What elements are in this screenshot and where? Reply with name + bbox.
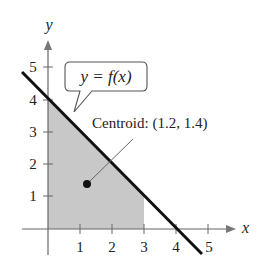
y-tick-label: 2: [29, 156, 37, 172]
chart-canvas: 1 2 3 4 5 1 2 3 4 5 x y y = f(x) Centroi…: [0, 0, 262, 275]
x-tick-label: 5: [205, 239, 213, 255]
x-tick-label: 2: [108, 239, 116, 255]
callout-label: y = f(x): [78, 67, 131, 86]
x-axis-label: x: [241, 219, 249, 236]
x-tick-label: 1: [76, 239, 84, 255]
x-axis-arrow-icon: [226, 225, 236, 233]
y-axis-arrow-icon: [44, 40, 52, 50]
y-axis-label: y: [43, 16, 53, 34]
y-tick-label: 3: [29, 124, 37, 140]
y-tick-label: 5: [29, 59, 37, 75]
y-tick-label: 4: [29, 92, 37, 108]
x-tick-label: 4: [172, 239, 180, 255]
x-tick-label: 3: [140, 239, 148, 255]
centroid-label: Centroid: (1.2, 1.4): [92, 115, 207, 132]
centroid-dot: [83, 180, 91, 188]
y-tick-label: 1: [29, 188, 37, 204]
